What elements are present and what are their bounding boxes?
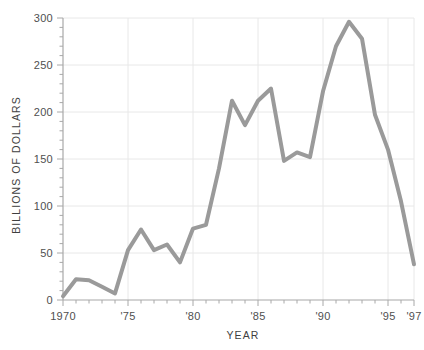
y-tick-label: 150: [34, 153, 53, 165]
gridlines: [63, 18, 414, 300]
line-chart: 050100150200250300 1970'75'80'85'90'95'9…: [0, 0, 424, 350]
y-tick-label: 250: [34, 59, 53, 71]
y-tick-label: 50: [40, 247, 53, 259]
y-tick-label: 300: [34, 12, 53, 24]
x-tick-label: 1970: [50, 310, 76, 322]
x-tick-label: '90: [315, 310, 330, 322]
x-tick-label: '95: [380, 310, 395, 322]
x-tick-label: '75: [120, 310, 135, 322]
y-tick-label: 100: [34, 200, 53, 212]
x-axis-tick-labels: 1970'75'80'85'90'95'97: [50, 310, 421, 322]
y-axis: [57, 18, 63, 300]
x-tick-label: '85: [250, 310, 265, 322]
chart-container: 050100150200250300 1970'75'80'85'90'95'9…: [0, 0, 424, 350]
x-tick-label: '80: [185, 310, 200, 322]
y-tick-label: 200: [34, 106, 53, 118]
x-axis: [63, 300, 414, 306]
x-tick-label: '97: [406, 310, 421, 322]
y-tick-label: 0: [47, 294, 53, 306]
x-axis-title: YEAR: [227, 329, 260, 341]
y-axis-tick-labels: 050100150200250300: [34, 12, 53, 306]
y-axis-title: BILLIONS OF DOLLARS: [10, 96, 22, 234]
